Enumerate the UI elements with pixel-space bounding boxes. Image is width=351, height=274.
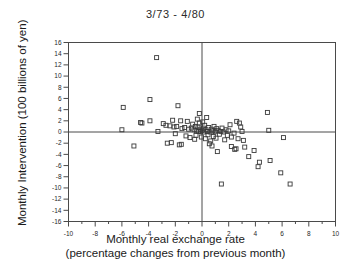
data-point — [209, 139, 213, 143]
y-axis-tick-label: 12 — [54, 61, 62, 68]
data-point — [217, 132, 221, 136]
x-axis-tick-label: -4 — [146, 230, 152, 237]
data-point — [180, 127, 184, 131]
data-point — [252, 148, 256, 152]
y-axis-tick-label: -16 — [52, 218, 62, 225]
x-axis-tick-label: -2 — [172, 230, 178, 237]
data-point — [179, 119, 183, 123]
x-axis-tick-label: -10 — [64, 230, 74, 237]
y-axis-tick-label: 14 — [54, 50, 62, 57]
data-point — [120, 128, 124, 132]
data-point — [197, 112, 201, 116]
data-point — [121, 105, 125, 109]
y-axis-tick-label: 2 — [58, 117, 62, 124]
y-axis-tick-label: 16 — [54, 39, 62, 46]
x-axis-tick-label: 2 — [227, 230, 231, 237]
data-point — [148, 119, 152, 123]
y-axis-tick-label: 0 — [58, 128, 62, 135]
data-point — [239, 125, 243, 129]
y-axis-tick-label: 4 — [58, 106, 62, 113]
y-axis-tick-label: 6 — [58, 95, 62, 102]
x-axis-tick-label: 0 — [200, 230, 204, 237]
data-point — [288, 182, 292, 186]
data-point — [268, 159, 272, 163]
data-point — [132, 144, 136, 148]
data-point — [240, 129, 244, 133]
data-point — [281, 136, 285, 140]
data-point — [184, 134, 188, 138]
data-point — [225, 133, 229, 137]
y-axis-tick-label: -4 — [56, 151, 62, 158]
data-point — [265, 110, 269, 114]
x-axis-tick-label: 10 — [332, 230, 340, 237]
data-point — [156, 129, 160, 133]
y-axis-tick-label: -6 — [56, 162, 62, 169]
data-point — [203, 137, 207, 141]
data-point — [279, 171, 283, 175]
data-point-group — [120, 56, 292, 186]
y-axis-tick-label: -10 — [52, 184, 62, 191]
data-point — [188, 136, 192, 140]
y-axis-tick-label: -14 — [52, 207, 62, 214]
data-point — [165, 141, 169, 145]
x-axis-tick-label: -6 — [119, 230, 125, 237]
data-point — [215, 150, 219, 154]
data-point — [176, 104, 180, 108]
data-point — [223, 138, 227, 142]
data-point — [228, 123, 232, 127]
data-point — [155, 56, 159, 60]
y-axis-tick-label: 8 — [58, 84, 62, 91]
scatter-chart-figure: 3/73 - 4/80 Monthly Intervention (100 bi… — [0, 0, 351, 274]
x-axis-tick-label: -8 — [92, 230, 98, 237]
data-point — [219, 182, 223, 186]
data-point — [148, 98, 152, 102]
plot-area: -10-8-6-4-202468101614121086420-2-4-6-8-… — [0, 0, 351, 274]
data-point — [236, 137, 240, 141]
data-point — [193, 137, 197, 141]
data-point — [243, 145, 247, 149]
data-point — [195, 117, 199, 121]
y-axis-tick-label: -12 — [52, 195, 62, 202]
data-point — [247, 155, 251, 159]
data-point — [194, 133, 198, 137]
x-axis-tick-label: 4 — [254, 230, 258, 237]
data-point — [256, 165, 260, 169]
y-axis-tick-label: 10 — [54, 72, 62, 79]
x-axis-tick-label: 6 — [280, 230, 284, 237]
data-point — [171, 118, 175, 122]
data-point — [169, 141, 173, 145]
data-point — [205, 115, 209, 119]
data-point — [168, 124, 172, 128]
data-point — [241, 138, 245, 142]
data-point — [257, 160, 261, 164]
data-point — [199, 135, 203, 139]
data-point — [229, 135, 233, 139]
data-point — [185, 119, 189, 123]
data-point — [183, 126, 187, 130]
x-axis-tick-label: 8 — [307, 230, 311, 237]
y-axis-tick-label: -8 — [56, 173, 62, 180]
data-point — [187, 127, 191, 131]
y-axis-tick-label: -2 — [56, 139, 62, 146]
